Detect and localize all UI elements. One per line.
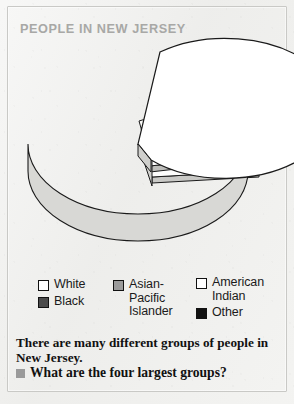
question-bullet-icon bbox=[16, 369, 25, 378]
legend-label-white: White bbox=[54, 278, 85, 292]
slice-white-main bbox=[28, 38, 294, 241]
page-title: PEOPLE IN NEW JERSEY bbox=[20, 21, 186, 36]
legend-column-3: American Indian Other bbox=[196, 276, 264, 323]
legend-item-asian-pacific-islander: Asian- Pacific Islander bbox=[113, 278, 173, 319]
legend-item-other: Other bbox=[196, 306, 264, 320]
legend-label-american-indian: American Indian bbox=[212, 276, 264, 303]
caption-block: There are many different groups of peopl… bbox=[16, 336, 282, 381]
legend-swatch-other-icon bbox=[196, 308, 207, 319]
caption-question: What are the four largest groups? bbox=[30, 366, 227, 381]
pie-chart-svg bbox=[0, 36, 294, 268]
pie-chart bbox=[0, 36, 294, 268]
legend-column-1: White Black bbox=[38, 278, 85, 311]
legend-label-other: Other bbox=[212, 306, 243, 320]
legend-swatch-white-icon bbox=[38, 280, 49, 291]
legend-swatch-black-icon bbox=[38, 297, 49, 308]
legend-label-asian-pacific-islander: Asian- Pacific Islander bbox=[129, 278, 173, 319]
legend-swatch-asian-pacific-islander-icon bbox=[113, 280, 124, 291]
legend-item-american-indian: American Indian bbox=[196, 276, 264, 303]
legend-label-black: Black bbox=[54, 295, 84, 309]
caption-statement: There are many different groups of peopl… bbox=[16, 336, 282, 365]
legend-swatch-american-indian-icon bbox=[196, 278, 207, 289]
legend-item-white: White bbox=[38, 278, 85, 292]
legend-column-2: Asian- Pacific Islander bbox=[113, 278, 173, 322]
legend-item-black: Black bbox=[38, 295, 85, 309]
chart-legend: White Black Asian- Pacific Islander Amer… bbox=[0, 276, 294, 328]
caption-question-row: What are the four largest groups? bbox=[16, 366, 282, 381]
page-background: PEOPLE IN NEW JERSEY bbox=[0, 0, 294, 404]
